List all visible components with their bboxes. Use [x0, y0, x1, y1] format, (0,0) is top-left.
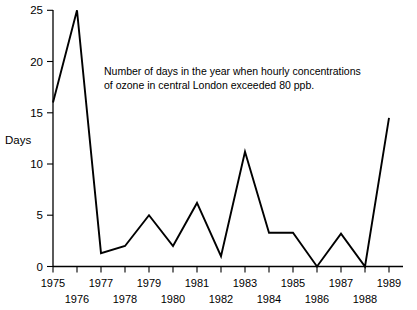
y-axis-title: Days — [5, 134, 31, 146]
x-label-1983: 1983 — [233, 277, 257, 289]
x-label-1989: 1989 — [377, 277, 401, 289]
x-axis-labels-bottom-row: 1976 1978 1980 1982 1984 1986 1988 — [65, 293, 377, 305]
x-label-1977: 1977 — [89, 277, 113, 289]
annotation-line-1: Number of days in the year when hourly c… — [104, 65, 361, 77]
annotation-line-2: of ozone in central London exceeded 80 p… — [104, 79, 314, 91]
y-tick-label-5: 5 — [37, 209, 43, 221]
x-label-1988: 1988 — [353, 293, 377, 305]
x-label-1976: 1976 — [65, 293, 89, 305]
x-label-1982: 1982 — [209, 293, 233, 305]
x-label-1985: 1985 — [281, 277, 305, 289]
y-tick-label-25: 25 — [30, 4, 43, 16]
x-label-1979: 1979 — [137, 277, 161, 289]
y-tick-label-10: 10 — [30, 158, 43, 170]
y-axis-ticks — [47, 10, 53, 266]
y-tick-label-15: 15 — [30, 107, 43, 119]
x-axis-ticks — [53, 267, 389, 273]
x-label-1980: 1980 — [161, 293, 185, 305]
x-label-1975: 1975 — [41, 277, 65, 289]
ozone-days-line-chart: 0 5 10 15 20 25 Days 1975 — [0, 0, 417, 310]
ozone-days-series-line — [53, 10, 389, 266]
x-label-1986: 1986 — [305, 293, 329, 305]
x-label-1978: 1978 — [113, 293, 137, 305]
x-label-1984: 1984 — [257, 293, 281, 305]
x-label-1987: 1987 — [329, 277, 353, 289]
x-axis-labels-top-row: 1975 1977 1979 1981 1983 1985 1987 1989 — [41, 277, 401, 289]
y-tick-label-20: 20 — [30, 56, 43, 68]
y-tick-label-0: 0 — [37, 261, 43, 273]
x-label-1981: 1981 — [185, 277, 209, 289]
chart-page: 0 5 10 15 20 25 Days 1975 — [0, 0, 417, 310]
